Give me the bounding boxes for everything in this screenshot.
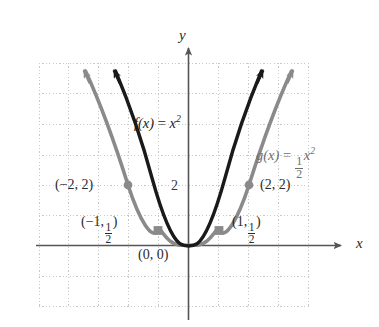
point-label-neg2-2: (−2, 2) xyxy=(55,178,93,192)
point-label-1-half-numerator: 1 xyxy=(248,222,256,233)
function-label-g-fraction-denominator: 2 xyxy=(295,168,303,181)
point-label-2-2: (2, 2) xyxy=(260,178,290,192)
point-label-neg1-half-denominator: 2 xyxy=(105,233,113,245)
point-label-1-half-fraction: 12 xyxy=(248,222,256,246)
point-label-neg1-half-numerator: 1 xyxy=(105,222,113,233)
function-label-f-exponent: 2 xyxy=(176,113,181,124)
marker-point-neg1-half xyxy=(154,226,163,235)
function-label-g-fraction: 12 xyxy=(295,156,303,181)
function-label-f-equals: = xyxy=(158,115,166,131)
y-axis-label: y xyxy=(179,28,186,43)
point-label-neg1-half-open: (−1, xyxy=(81,214,104,229)
function-label-g-exponent: 2 xyxy=(310,145,315,156)
graph-canvas xyxy=(0,0,379,327)
function-label-g: g(x) = 12x2 xyxy=(256,146,315,181)
point-label-1-half-open: (1, xyxy=(232,214,247,229)
point-label-1-half: (1,12) xyxy=(232,215,261,246)
point-label-neg1-half-close: ) xyxy=(113,214,118,229)
marker-point-2-2 xyxy=(245,181,254,190)
y-axis-tick-label-2: 2 xyxy=(171,179,178,193)
marker-point-neg2-2 xyxy=(124,181,133,190)
marker-point-1-half xyxy=(215,226,224,235)
point-label-origin: (0, 0) xyxy=(138,248,168,262)
point-label-1-half-denominator: 2 xyxy=(248,233,256,245)
function-label-f-arg: (x) xyxy=(138,115,154,131)
function-label-f: f(x) = x2 xyxy=(134,114,181,130)
function-label-g-arg: (x) xyxy=(263,147,279,163)
point-label-1-half-close: ) xyxy=(256,214,261,229)
point-label-neg1-half-fraction: 12 xyxy=(105,222,113,246)
x-axis-label: x xyxy=(356,236,363,251)
parabola-comparison-figure: y x 2 f(x) = x2 g(x) = 12x2 (−2, 2) (2, … xyxy=(0,0,379,327)
function-label-g-equals: = xyxy=(283,147,291,163)
function-label-g-fraction-numerator: 1 xyxy=(295,156,303,168)
point-label-neg1-half: (−1,12) xyxy=(81,215,117,246)
